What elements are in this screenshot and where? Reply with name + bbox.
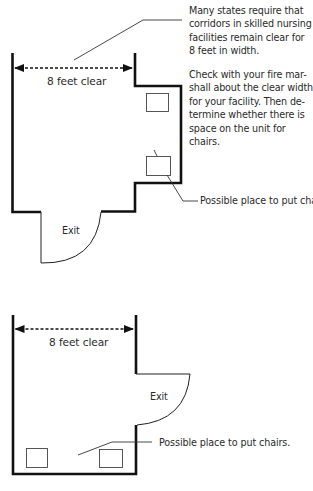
note-line: shall about the clear width	[189, 81, 313, 94]
chairs-leader-line-1	[167, 175, 198, 201]
note-line: facilities remain clear for	[189, 31, 312, 44]
chair-placeholder-2	[147, 157, 171, 176]
corridor-2-chairs-label: Possible place to put chairs.	[159, 437, 290, 448]
note-line: corridors in skilled nursing	[189, 17, 312, 30]
corridor-1-width-label: 8 feet clear	[47, 75, 106, 87]
note-line: 8 feet in width.	[189, 44, 312, 57]
note-line: Check with your fire mar-	[189, 68, 313, 81]
note-line: Many states require that	[189, 4, 312, 17]
chairs-leader-line-2	[78, 442, 152, 455]
note-leader-line	[74, 20, 182, 60]
regulation-note: Many states require that corridors in sk…	[189, 4, 312, 58]
fire-marshall-note: Check with your fire mar- shall about th…	[189, 68, 313, 148]
corridor-diagram-1	[13, 20, 199, 263]
note-line: termine whether there is	[189, 108, 313, 121]
chair-placeholder-4	[100, 450, 123, 468]
corridor-1-left-wall	[13, 53, 42, 212]
note-line: space on the unit for	[189, 122, 313, 135]
corridor-1-door-swing-arc	[41, 212, 101, 263]
corridor-1-chairs-label: Possible place to put chairs.	[200, 195, 313, 206]
chair-tick-mark	[154, 150, 157, 156]
chair-placeholder-3	[27, 449, 48, 468]
chair-placeholder-1	[147, 94, 169, 112]
corridor-1-exit-label: Exit	[62, 225, 80, 236]
note-line: chairs.	[189, 135, 313, 148]
corridor-1-right-wall	[101, 53, 181, 212]
note-line: for your facility. Then de-	[189, 95, 313, 108]
corridor-2-width-label: 8 feet clear	[49, 336, 108, 348]
corridor-2-exit-label: Exit	[150, 391, 168, 402]
